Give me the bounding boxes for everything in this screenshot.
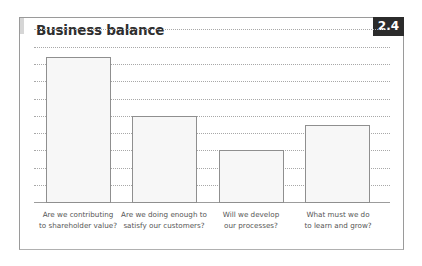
- category-label-learn-grow: What must we do to learn and grow?: [283, 209, 393, 231]
- bar-customers: [132, 116, 197, 203]
- gridline: [34, 47, 390, 48]
- bar-learn-grow: [305, 125, 370, 204]
- bar-processes: [219, 150, 284, 203]
- frame-accent: [20, 18, 24, 34]
- title-rule: [34, 29, 390, 30]
- bar-shareholder-value: [46, 57, 111, 203]
- plot-area: [34, 29, 390, 203]
